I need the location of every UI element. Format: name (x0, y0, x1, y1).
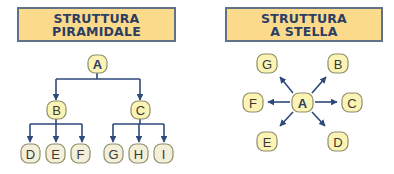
pyramid-node-i: I (154, 144, 173, 163)
node-label: C (136, 103, 145, 118)
node-label: B (52, 103, 61, 118)
star-node-g: G (257, 54, 277, 73)
node-label: D (333, 135, 342, 150)
star-arrow-a-b (312, 77, 326, 93)
pyramid-node-g: G (104, 144, 123, 163)
pyramid-node-c: C (131, 101, 150, 119)
star-node-e: E (257, 132, 277, 151)
node-label: G (262, 57, 272, 72)
node-label: C (347, 96, 356, 111)
node-label: A (93, 57, 103, 72)
node-label: B (334, 57, 343, 72)
star-node-d: D (328, 132, 348, 151)
node-label: D (26, 147, 35, 162)
star-node-c: C (342, 93, 362, 112)
pyramid-node-h: H (129, 144, 148, 163)
star-node-f: F (243, 93, 263, 112)
pyramid-node-e: E (46, 144, 65, 163)
node-label: E (263, 135, 272, 150)
pyramid-node-d: D (21, 144, 40, 163)
star-arrow-a-d (312, 112, 325, 126)
node-label: I (162, 147, 166, 162)
node-label: H (134, 147, 143, 162)
node-label: G (108, 147, 118, 162)
star-arrow-a-g (280, 77, 293, 93)
pyramid-node-a: A (88, 55, 107, 73)
node-label: A (298, 96, 308, 111)
node-label: E (51, 147, 60, 162)
node-label: F (249, 96, 257, 111)
pyramid-node-b: B (47, 101, 66, 119)
star-node-a: A (292, 93, 313, 112)
star-arrow-a-e (280, 112, 293, 126)
diagram-canvas: A B C D E F G H I A (0, 0, 394, 174)
pyramid-node-f: F (71, 144, 90, 163)
star-node-b: B (328, 54, 348, 73)
node-label: F (77, 147, 85, 162)
